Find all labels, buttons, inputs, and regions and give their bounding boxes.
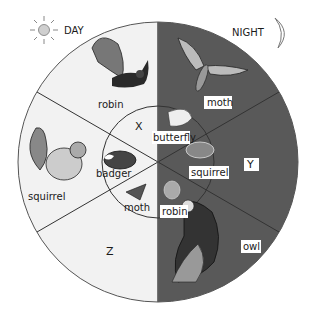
crescent-moon-icon bbox=[275, 18, 284, 48]
label-outer-y: Y bbox=[246, 158, 254, 171]
label-inner-squirrel: squirrel bbox=[191, 167, 228, 178]
label-inner-badger: badger bbox=[96, 168, 132, 179]
day-label: DAY bbox=[64, 25, 85, 36]
label-outer-squirrel: squirrel bbox=[28, 191, 65, 202]
sun-icon bbox=[30, 16, 58, 44]
label-outer-robin: robin bbox=[98, 99, 123, 110]
day-night-activity-diagram: DAY NIGHT bbox=[0, 0, 311, 316]
label-outer-z: Z bbox=[106, 245, 114, 258]
night-label: NIGHT bbox=[232, 27, 265, 38]
label-inner-moth: moth bbox=[124, 202, 150, 213]
label-inner-robin: robin bbox=[162, 206, 187, 217]
label-inner-butterfly: butterfly bbox=[153, 132, 196, 143]
label-outer-owl: owl bbox=[243, 241, 260, 252]
label-inner-x: X bbox=[135, 120, 143, 133]
robin-roosting-illustration bbox=[164, 181, 180, 199]
label-outer-moth: moth bbox=[207, 97, 233, 108]
badger-illustration bbox=[104, 151, 136, 169]
squirrel-curled-illustration bbox=[186, 142, 214, 158]
